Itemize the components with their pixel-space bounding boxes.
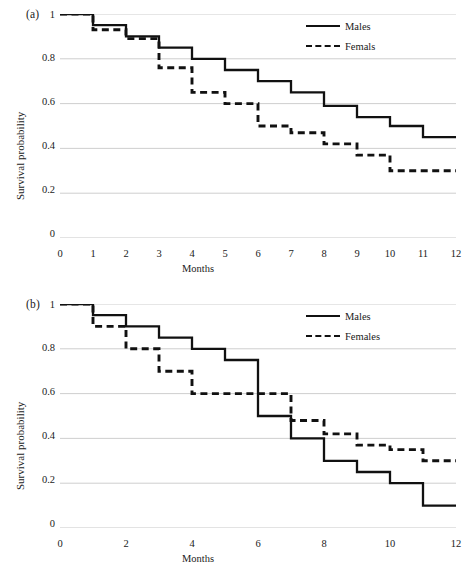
panel-a-legend-label-males: Males	[345, 21, 371, 32]
series-line-males	[60, 304, 456, 506]
panel-a-svg	[60, 14, 456, 238]
panel-b-legend-label-females: Females	[345, 331, 380, 342]
panel-b-x-axis-label: Months	[153, 553, 243, 564]
panel-a-ytick-0.8: 0.8	[20, 52, 55, 63]
panel-b-ytick-1: 1	[20, 299, 55, 310]
panel-b-ytick-0.6: 0.6	[20, 386, 55, 397]
panel-b-legend-item-females: Females	[306, 328, 380, 344]
panel-b-ytick-0: 0	[20, 518, 55, 529]
panel-a-legend-label-females: Femals	[345, 41, 375, 52]
panel-a-ytick-0.4: 0.4	[20, 140, 55, 151]
xtick-12: 12	[436, 538, 465, 549]
panel-b-legend: Males Females	[306, 308, 380, 348]
panel-b-svg	[60, 304, 456, 528]
panel-b-legend-item-males: Males	[306, 308, 380, 324]
panel-a-legend-item-males: Males	[306, 18, 375, 34]
xtick-2: 2	[106, 538, 146, 549]
panel-a-plot-area	[60, 14, 456, 238]
panel-b-ytick-0.2: 0.2	[20, 474, 55, 485]
legend-line-dashed-icon	[306, 331, 340, 341]
xtick-0: 0	[40, 538, 80, 549]
panel-b-ytick-0.4: 0.4	[20, 430, 55, 441]
xtick-4: 4	[172, 538, 212, 549]
panel-a-ytick-0.6: 0.6	[20, 96, 55, 107]
xtick-8: 8	[304, 538, 344, 549]
panel-a: (a) Survival probability 1 0.8 0.6 0.4 0…	[0, 0, 465, 289]
series-line-femals	[60, 14, 456, 171]
legend-line-solid-icon	[306, 21, 340, 31]
panel-a-ytick-0: 0	[20, 228, 55, 239]
panel-b-plot-area	[60, 304, 456, 528]
legend-line-solid-icon	[306, 311, 340, 321]
panel-a-x-axis-label: Months	[153, 263, 243, 274]
panel-a-ytick-0.2: 0.2	[20, 184, 55, 195]
xtick-6: 6	[238, 538, 278, 549]
panel-a-ytick-1: 1	[20, 9, 55, 20]
panel-a-legend-item-females: Femals	[306, 38, 375, 54]
xtick-12: 12	[436, 248, 465, 259]
panel-b: (b) Survival probability 1 0.8 0.6 0.4 0…	[0, 290, 465, 579]
panel-a-legend: Males Femals	[306, 18, 375, 58]
panel-b-legend-label-males: Males	[345, 311, 371, 322]
figure-page: (a) Survival probability 1 0.8 0.6 0.4 0…	[0, 0, 465, 579]
xtick-10: 10	[370, 538, 410, 549]
legend-line-dashed-icon	[306, 41, 340, 51]
panel-b-ytick-0.8: 0.8	[20, 342, 55, 353]
